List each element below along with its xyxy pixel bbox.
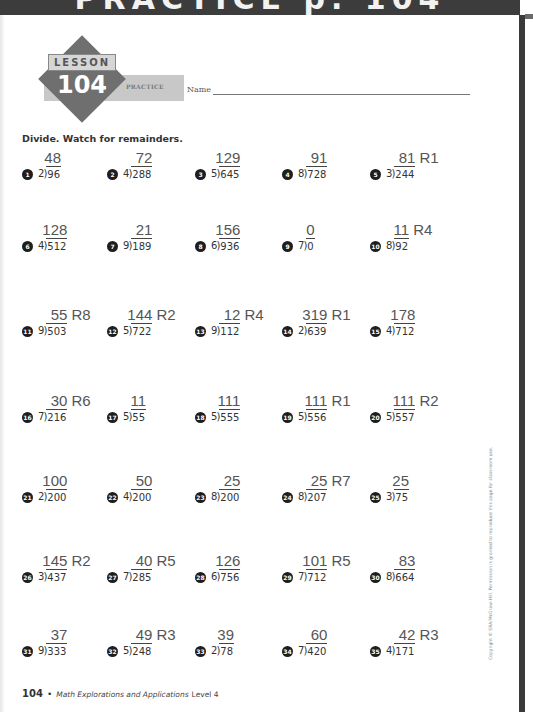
division-problem: 142)639319 R1 (282, 307, 382, 347)
problem-number-badge: 35 (370, 646, 381, 657)
dividend: 639 (306, 323, 327, 340)
dividend: 288 (131, 166, 152, 183)
quotient-answer: 100 (42, 473, 67, 489)
problem-number-badge: 16 (22, 412, 33, 423)
dividend: 512 (46, 238, 67, 255)
dividend: 936 (219, 238, 240, 255)
quotient-answer: 111 R1 (305, 393, 351, 409)
division-problem: 125)722144 R2 (107, 307, 207, 347)
quotient-answer: 11 R4 (393, 222, 432, 238)
book-level: Level 4 (192, 690, 219, 699)
division-problem: 297)712101 R5 (282, 553, 382, 593)
problem-number-badge: 33 (195, 646, 206, 657)
problem-number-badge: 8 (195, 241, 206, 252)
quotient-answer: 111 (218, 393, 241, 409)
page-left-shadow (0, 15, 5, 712)
division-problem: 35)645129 (195, 150, 295, 190)
quotient-answer: 12 R4 (224, 307, 264, 323)
dividend: 244 (394, 166, 415, 183)
quotient-answer: 156 (215, 222, 240, 238)
problem-number-badge: 6 (22, 241, 33, 252)
problem-number-badge: 17 (107, 412, 118, 423)
division-problem: 53)24481 R1 (370, 150, 470, 190)
book-title: Math Explorations and Applications (56, 690, 188, 699)
quotient-answer: 91 (311, 150, 328, 166)
quotient-answer: 83 (399, 553, 416, 569)
division-problem: 185)555111 (195, 393, 295, 433)
quotient-answer: 42 R3 (399, 627, 439, 643)
dividend: 722 (131, 323, 152, 340)
dividend: 555 (219, 409, 240, 426)
dividend: 420 (306, 643, 327, 660)
quotient-answer: 72 (136, 150, 153, 166)
dividend: 200 (219, 489, 240, 506)
dividend: 75 (394, 489, 409, 506)
quotient-answer: 319 R1 (302, 307, 350, 323)
division-problem: 108)9211 R4 (370, 222, 470, 262)
dividend: 200 (46, 489, 67, 506)
division-problem: 354)17142 R3 (370, 627, 470, 667)
problem-number-badge: 13 (195, 326, 206, 337)
problem-number-badge: 23 (195, 492, 206, 503)
division-problem: 248)20725 R7 (282, 473, 382, 513)
problem-number-badge: 12 (107, 326, 118, 337)
dividend: 248 (131, 643, 152, 660)
division-problem: 195)556111 R1 (282, 393, 382, 433)
problem-number-badge: 29 (282, 572, 293, 583)
dividend: 207 (306, 489, 327, 506)
dividend: 200 (131, 489, 152, 506)
dividend: 55 (131, 409, 146, 426)
dividend: 712 (394, 323, 415, 340)
problem-number-badge: 14 (282, 326, 293, 337)
banner-title: PRACTICE p. 104 (0, 0, 520, 15)
division-problem: 253)7525 (370, 473, 470, 513)
division-problem: 347)42060 (282, 627, 382, 667)
name-field[interactable] (213, 94, 470, 95)
problem-number-badge: 10 (370, 241, 381, 252)
problem-number-badge: 21 (22, 492, 33, 503)
division-problem: 224)20050 (107, 473, 207, 513)
quotient-answer: 48 (44, 150, 61, 166)
problem-number-badge: 18 (195, 412, 206, 423)
quotient-answer: 25 (392, 473, 409, 489)
quotient-answer: 37 (51, 627, 68, 643)
problem-number-badge: 4 (282, 169, 293, 180)
quotient-answer: 25 R7 (311, 473, 351, 489)
problem-number-badge: 28 (195, 572, 206, 583)
copyright-notice: Copyright © SRA/McGraw-Hill. Permission … (488, 420, 493, 660)
quotient-answer: 25 (224, 473, 241, 489)
lesson-label: LESSON (48, 54, 116, 71)
quotient-answer: 178 (390, 307, 415, 323)
problem-number-badge: 2 (107, 169, 118, 180)
division-problem: 325)24849 R3 (107, 627, 207, 667)
division-problem: 308)66483 (370, 553, 470, 593)
problem-number-badge: 1 (22, 169, 33, 180)
instructions: Divide. Watch for remainders. (22, 133, 183, 144)
problem-number-badge: 7 (107, 241, 118, 252)
division-problem: 86)936156 (195, 222, 295, 262)
problem-number-badge: 30 (370, 572, 381, 583)
dividend: 437 (46, 569, 67, 586)
problem-number-badge: 11 (22, 326, 33, 337)
quotient-answer: 111 R2 (393, 393, 439, 409)
quotient-answer: 145 R2 (42, 553, 90, 569)
quotient-answer: 11 (130, 393, 146, 409)
problem-number-badge: 9 (282, 241, 293, 252)
quotient-answer: 30 R6 (51, 393, 91, 409)
problem-number-badge: 15 (370, 326, 381, 337)
dividend: 216 (46, 409, 67, 426)
dividend: 728 (306, 166, 327, 183)
quotient-answer: 129 (215, 150, 240, 166)
dividend: 333 (46, 643, 67, 660)
problem-number-badge: 32 (107, 646, 118, 657)
quotient-answer: 128 (42, 222, 67, 238)
problem-number-badge: 5 (370, 169, 381, 180)
quotient-answer: 55 R8 (51, 307, 91, 323)
dividend: 96 (46, 166, 61, 183)
division-problem: 154)712178 (370, 307, 470, 347)
quotient-answer: 60 (311, 627, 328, 643)
dividend: 556 (306, 409, 327, 426)
dividend: 645 (219, 166, 240, 183)
division-problem: 24)28872 (107, 150, 207, 190)
problem-number-badge: 27 (107, 572, 118, 583)
